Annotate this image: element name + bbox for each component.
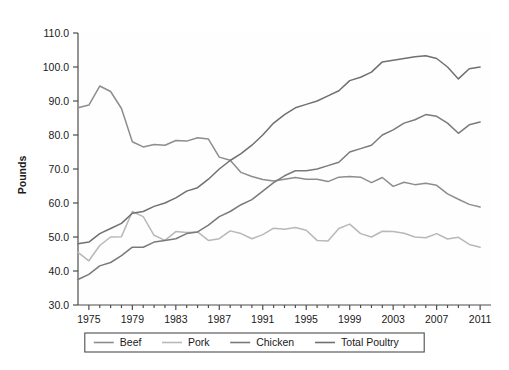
x-axis-tick-label: 1979 <box>121 313 145 325</box>
x-axis-tick-label: 1983 <box>164 313 188 325</box>
y-axis-tick-label: 40.0 <box>49 265 70 277</box>
y-axis-tick-label: 110.0 <box>44 27 70 39</box>
x-axis-tick-label: 1975 <box>77 313 101 325</box>
x-axis-tick-label: 1995 <box>295 313 319 325</box>
y-axis-tick-label: 70.0 <box>49 163 70 175</box>
x-axis-tick-label: 2011 <box>469 313 492 325</box>
y-axis-tick-label: 80.0 <box>49 129 70 141</box>
y-axis-tick-label: 50.0 <box>49 231 70 243</box>
line-chart: 110.0100.090.080.070.060.050.040.030.019… <box>0 0 509 370</box>
chart-container: 110.0100.090.080.070.060.050.040.030.019… <box>0 0 509 370</box>
y-axis-tick-label: 30.0 <box>49 299 70 311</box>
x-axis-tick-label: 2003 <box>382 313 406 325</box>
legend-label-chicken: Chicken <box>256 336 294 348</box>
x-axis-tick-label: 2007 <box>425 313 449 325</box>
plot-area-background <box>78 33 491 305</box>
y-axis-tick-label: 60.0 <box>49 197 70 209</box>
legend-label-beef: Beef <box>120 336 142 348</box>
x-axis-tick-label: 1999 <box>338 313 362 325</box>
y-axis-tick-label: 90.0 <box>49 95 70 107</box>
legend-label-total-poultry: Total Poultry <box>341 336 400 348</box>
x-axis-tick-label: 1987 <box>208 313 232 325</box>
legend-label-pork: Pork <box>188 336 210 348</box>
y-axis-title: Pounds <box>16 156 28 195</box>
x-axis-tick-label: 1991 <box>251 313 275 325</box>
y-axis-tick-label: 100.0 <box>43 61 69 73</box>
